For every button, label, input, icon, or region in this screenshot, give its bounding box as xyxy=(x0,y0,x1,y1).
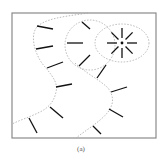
direction-tick xyxy=(93,126,101,134)
large-dashed-circle xyxy=(65,20,115,70)
field-direction-ticks xyxy=(29,22,127,134)
figure-caption: (a) xyxy=(0,145,162,153)
center-point-marker xyxy=(121,42,124,45)
direction-tick xyxy=(56,84,72,87)
direction-tick xyxy=(111,87,127,92)
direction-tick xyxy=(97,65,106,78)
direction-tick xyxy=(50,107,63,118)
radial-tick xyxy=(126,47,133,54)
field-diagram xyxy=(0,0,162,161)
direction-tick xyxy=(37,26,53,29)
direction-tick xyxy=(79,55,90,66)
radial-tick xyxy=(111,47,118,54)
direction-tick xyxy=(47,62,63,68)
direction-tick xyxy=(36,46,53,49)
diagram-frame xyxy=(12,13,156,138)
direction-tick xyxy=(109,109,123,117)
dashed-boundaries xyxy=(12,13,113,138)
direction-tick xyxy=(29,118,37,133)
radial-tick xyxy=(126,32,133,39)
radial-tick xyxy=(111,32,118,39)
direction-tick xyxy=(82,22,90,29)
